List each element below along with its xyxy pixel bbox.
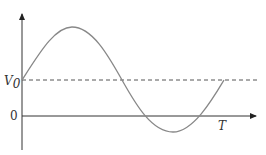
v0-label: V0	[4, 74, 21, 91]
waveform-diagram: V0 0 T	[0, 0, 266, 155]
period-label: T	[218, 119, 227, 133]
zero-label: 0	[10, 109, 18, 123]
